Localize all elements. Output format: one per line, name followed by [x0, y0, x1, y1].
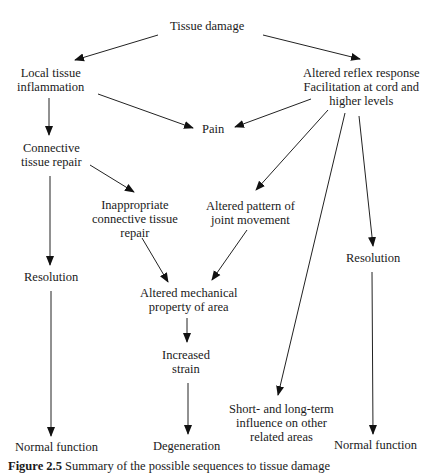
node-label: Connective: [21, 141, 82, 155]
node-normal-function-right: Normal function: [334, 438, 417, 452]
node-label: Facilitation at cord and: [303, 80, 420, 94]
node-label: Normal function: [15, 440, 98, 454]
node-label: Short- and long-term: [229, 402, 334, 416]
node-label: joint movement: [206, 213, 295, 227]
node-label: Normal function: [334, 438, 417, 452]
node-resolution-left: Resolution: [24, 270, 78, 284]
node-label: Resolution: [24, 270, 78, 284]
node-resolution-right: Resolution: [346, 251, 400, 265]
node-label: Pain: [202, 122, 224, 136]
node-altered-pattern: Altered pattern of joint movement: [206, 199, 295, 227]
node-label: Altered pattern of: [206, 199, 295, 213]
node-normal-function-left: Normal function: [15, 440, 98, 454]
node-label: Altered reflex response: [303, 66, 420, 80]
node-local-inflammation: Local tissue inflammation: [17, 66, 84, 94]
node-degeneration: Degeneration: [153, 439, 220, 453]
node-short-long-term: Short- and long-term influence on other …: [229, 402, 334, 444]
node-label: connective tissue: [92, 212, 178, 226]
node-increased-strain: Increased strain: [162, 348, 210, 376]
caption-text: Summary of the possible sequences to tis…: [65, 459, 330, 473]
node-connective-repair: Connective tissue repair: [21, 141, 82, 169]
figure-caption: Figure 2.5 Summary of the possible seque…: [8, 459, 330, 474]
node-label: related areas: [229, 430, 334, 444]
node-label: repair: [92, 226, 178, 240]
node-pain: Pain: [202, 122, 224, 136]
node-label: Resolution: [346, 251, 400, 265]
node-label: Altered mechanical: [140, 286, 238, 300]
node-altered-reflex: Altered reflex response Facilitation at …: [303, 66, 420, 108]
node-label: Tissue damage: [170, 19, 244, 33]
node-altered-mechanical: Altered mechanical property of area: [140, 286, 238, 314]
node-label: inflammation: [17, 80, 84, 94]
caption-label: Figure 2.5: [8, 459, 62, 473]
node-label: Inappropriate: [92, 198, 178, 212]
node-inappropriate-repair: Inappropriate connective tissue repair: [92, 198, 178, 240]
node-label: property of area: [140, 300, 238, 314]
node-label: Increased: [162, 348, 210, 362]
node-label: strain: [162, 362, 210, 376]
node-label: Local tissue: [17, 66, 84, 80]
node-label: Degeneration: [153, 439, 220, 453]
node-label: tissue repair: [21, 155, 82, 169]
node-label: higher levels: [303, 94, 420, 108]
node-tissue-damage: Tissue damage: [170, 19, 244, 33]
node-label: influence on other: [229, 416, 334, 430]
